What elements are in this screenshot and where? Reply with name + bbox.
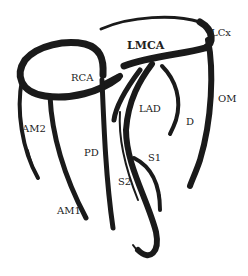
lcx-om-vessel — [190, 40, 211, 186]
label-rca: RCA — [71, 73, 93, 83]
label-lad: LAD — [139, 104, 161, 114]
diagonal-vessel — [162, 66, 178, 134]
label-s1: S1 — [148, 153, 161, 163]
am1-vessel — [50, 96, 86, 218]
label-am2: AM2 — [22, 124, 46, 134]
label-lcx: LCx — [211, 28, 231, 38]
lmca-arc-vessel — [101, 17, 200, 29]
label-pd: PD — [84, 148, 99, 158]
coronary-artery-diagram: LMCA LCx RCA OM LAD D AM2 PD S1 S2 AM1 — [0, 0, 248, 276]
pd-vessel — [102, 80, 113, 228]
label-lmca: LMCA — [127, 40, 164, 51]
label-am1: AM1 — [57, 206, 81, 216]
label-om: OM — [218, 94, 236, 104]
label-d: D — [186, 117, 194, 127]
vessel-drawing — [0, 0, 248, 276]
label-s2: S2 — [118, 177, 131, 187]
